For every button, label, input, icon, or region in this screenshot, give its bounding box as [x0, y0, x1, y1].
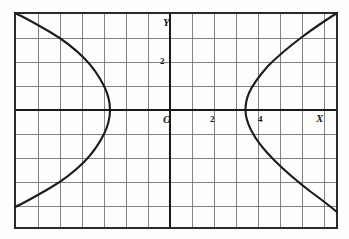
- plot-canvas: [0, 0, 349, 239]
- y-axis-label: Y: [163, 17, 170, 28]
- origin-label: O: [163, 114, 171, 125]
- x-tick-label-4: 4: [258, 115, 263, 124]
- y-tick-label-2: 2: [160, 57, 165, 66]
- x-axis-label: X: [316, 113, 323, 124]
- x-tick-label-2: 2: [210, 115, 215, 124]
- plot-background: [15, 13, 337, 228]
- hyperbola-figure: Y X O 2 2 4: [0, 0, 349, 239]
